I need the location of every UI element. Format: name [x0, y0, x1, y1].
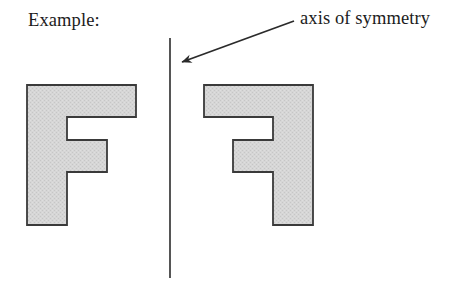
figure-canvas: Example: axis of symmetry	[0, 0, 463, 293]
f-shape-mirrored	[204, 85, 313, 225]
f-shape-original	[27, 85, 136, 225]
symmetry-diagram	[0, 0, 463, 293]
axis-of-symmetry-arrow	[182, 21, 294, 62]
